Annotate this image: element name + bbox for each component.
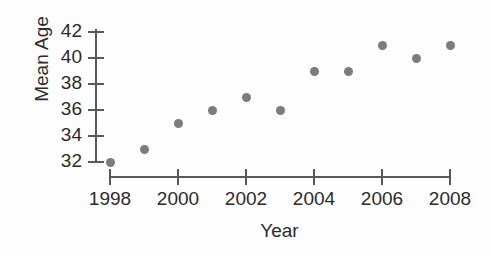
x-axis-tick [109, 169, 111, 185]
y-axis-tick-label-holder: 42 [48, 31, 82, 32]
data-point [174, 119, 183, 128]
x-axis-tick [381, 169, 383, 185]
x-axis-tick-label: 2006 [349, 189, 415, 208]
y-axis-tick [88, 161, 104, 163]
x-axis-tick-label: 1998 [77, 189, 143, 208]
y-axis-tick [88, 109, 104, 111]
data-point [140, 145, 149, 154]
y-axis-tick-label: 32 [48, 151, 82, 170]
x-axis-tick [449, 169, 451, 185]
x-axis-tick-label: 2000 [145, 189, 211, 208]
y-axis-tick [88, 31, 104, 33]
data-point [378, 41, 387, 50]
y-axis-tick-label-holder: 34 [48, 135, 82, 136]
y-axis-tick-label-holder: 32 [48, 161, 82, 162]
y-axis-tick-label-holder: 36 [48, 109, 82, 110]
data-point [242, 93, 251, 102]
x-axis-tick [177, 169, 179, 185]
y-axis-tick-label: 38 [48, 73, 82, 92]
plot-area: 323436384042 199820002002200420062008 Me… [0, 0, 490, 255]
x-axis-tick [245, 169, 247, 185]
data-point [412, 54, 421, 63]
y-axis-tick-label-holder: 40 [48, 57, 82, 58]
y-axis-tick-label-holder: 38 [48, 83, 82, 84]
x-axis-tick [313, 169, 315, 185]
x-axis-tick-label: 2008 [417, 189, 483, 208]
y-axis-tick-label: 40 [48, 47, 82, 66]
data-point [106, 158, 115, 167]
y-axis-tick-label: 34 [48, 125, 82, 144]
y-axis-tick [88, 135, 104, 137]
data-point [208, 106, 217, 115]
x-axis-line [110, 176, 449, 178]
y-axis-line [95, 29, 97, 163]
scatter-plot-figure: 323436384042 199820002002200420062008 Me… [0, 0, 490, 255]
y-axis-title: Mean Age [31, 4, 53, 114]
y-axis-tick-label: 36 [48, 99, 82, 118]
y-axis-tick-label: 42 [48, 21, 82, 40]
x-axis-tick-label: 2004 [281, 189, 347, 208]
x-axis-title: Year [110, 220, 449, 242]
y-axis-tick [88, 83, 104, 85]
data-point [446, 41, 455, 50]
data-point [310, 67, 319, 76]
data-point [276, 106, 285, 115]
y-axis-tick [88, 57, 104, 59]
data-point [344, 67, 353, 76]
x-axis-tick-label: 2002 [213, 189, 279, 208]
